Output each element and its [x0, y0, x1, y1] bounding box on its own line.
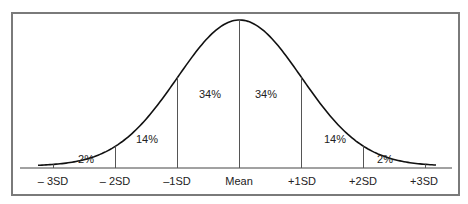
axis-label-minus-1sd: –1SD: [163, 175, 191, 187]
sd-lines: [54, 20, 426, 168]
axis-label-minus-3sd: – 3SD: [38, 175, 69, 187]
normal-curve-diagram: [0, 0, 468, 204]
bell-curve: [38, 20, 436, 165]
segment-pct-2: 14%: [136, 133, 158, 145]
axis-label-minus-2sd: – 2SD: [100, 175, 131, 187]
axis-label-mean: Mean: [225, 175, 253, 187]
segment-pct-4: 34%: [255, 88, 277, 100]
axis-label-plus-1sd: +1SD: [288, 175, 316, 187]
axis-label-plus-3sd: +3SD: [410, 175, 438, 187]
segment-pct-6: 2%: [377, 153, 393, 165]
segment-pct-5: 14%: [324, 133, 346, 145]
segment-pct-3: 34%: [199, 88, 221, 100]
axis-label-plus-2sd: +2SD: [349, 175, 377, 187]
segment-pct-1: 2%: [78, 153, 94, 165]
